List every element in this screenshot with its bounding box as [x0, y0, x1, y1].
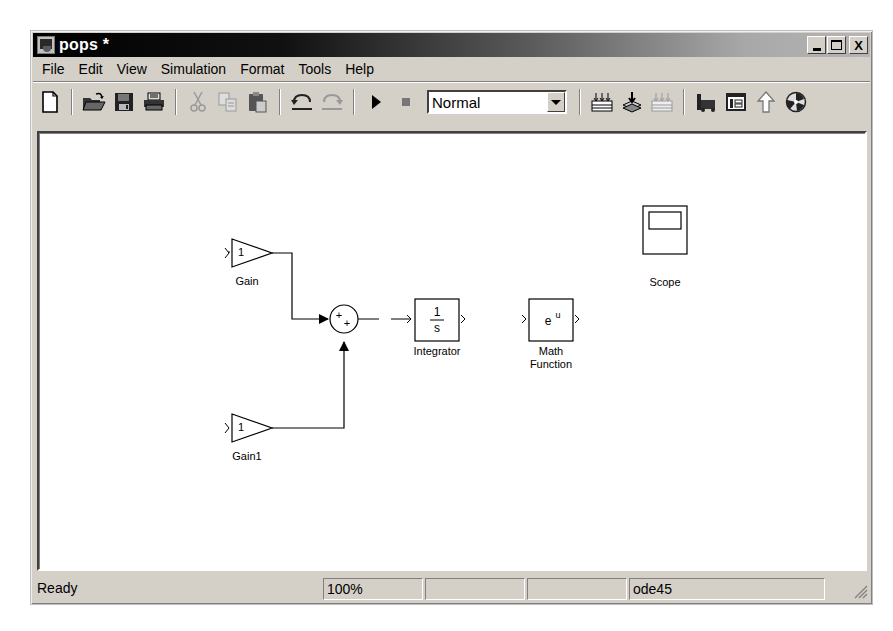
print-button[interactable] — [140, 88, 168, 116]
update-diagram-button[interactable] — [618, 88, 646, 116]
math-function-label-line2[interactable]: Function — [519, 358, 583, 371]
math-function-label-line1[interactable]: Math — [519, 345, 583, 358]
signal-line-gain1-to-sum[interactable] — [272, 342, 344, 428]
update-diagram-icon — [621, 91, 643, 113]
svg-text:1: 1 — [434, 305, 441, 319]
menu-tools[interactable]: Tools — [292, 59, 339, 79]
cut-button[interactable] — [184, 88, 212, 116]
svg-text:u: u — [555, 310, 560, 320]
gain-block[interactable] — [225, 239, 272, 267]
toolbar-separator — [71, 89, 73, 115]
svg-text:+: + — [344, 317, 350, 329]
window-controls: X — [806, 36, 868, 54]
model-canvas[interactable]: + + 1 s e u — [37, 131, 867, 571]
menu-help[interactable]: Help — [338, 59, 381, 79]
model-explorer-button[interactable] — [722, 88, 750, 116]
title-bar[interactable]: pops * X — [33, 33, 870, 57]
build-icon — [591, 92, 613, 112]
status-bar: Ready 100% ode45 — [33, 577, 870, 601]
zoom-level: 100% — [323, 578, 423, 600]
status-pane-3 — [425, 578, 525, 600]
simulation-mode-select[interactable]: Normal — [427, 90, 567, 114]
open-folder-icon — [82, 92, 106, 112]
new-model-button[interactable] — [36, 88, 64, 116]
print-icon — [142, 92, 166, 112]
window-title: pops * — [59, 36, 109, 54]
open-model-button[interactable] — [80, 88, 108, 116]
toolbar-separator — [683, 89, 685, 115]
library-browser-icon — [695, 92, 717, 112]
redo-button[interactable] — [318, 88, 346, 116]
undo-button[interactable] — [288, 88, 316, 116]
menu-file[interactable]: File — [35, 59, 72, 79]
scope-block[interactable] — [643, 206, 687, 254]
gain-label[interactable]: Gain — [225, 275, 269, 288]
menu-simulation[interactable]: Simulation — [154, 59, 233, 79]
cut-icon — [190, 91, 206, 113]
solver-name: ode45 — [629, 578, 825, 600]
toolbar-separator — [579, 89, 581, 115]
undo-icon — [290, 92, 314, 112]
toolbar-separator — [279, 89, 281, 115]
start-simulation-button[interactable] — [362, 88, 390, 116]
library-browser-button[interactable] — [692, 88, 720, 116]
math-function-block[interactable]: e u — [522, 299, 579, 341]
go-to-parent-icon — [757, 91, 775, 113]
svg-text:s: s — [434, 321, 440, 335]
maximize-icon — [831, 40, 842, 50]
scope-label[interactable]: Scope — [635, 276, 695, 289]
save-icon — [114, 92, 134, 112]
copy-button[interactable] — [214, 88, 242, 116]
new-document-icon — [41, 91, 59, 113]
build-subsystem-icon — [651, 92, 673, 112]
redo-icon — [320, 92, 344, 112]
sum-block[interactable]: + + — [330, 305, 358, 333]
integrator-block[interactable]: 1 s — [415, 299, 465, 341]
integrator-label[interactable]: Integrator — [405, 345, 469, 358]
model-explorer-icon — [726, 93, 746, 111]
paste-button[interactable] — [244, 88, 272, 116]
toolbar-separator — [353, 89, 355, 115]
start-simulation-icon — [370, 94, 382, 110]
go-to-parent-button[interactable] — [752, 88, 780, 116]
chevron-down-icon[interactable] — [547, 92, 565, 112]
status-text: Ready — [33, 578, 321, 600]
status-pane-4 — [527, 578, 627, 600]
resize-grip-icon[interactable] — [852, 583, 868, 599]
minimize-button[interactable] — [807, 36, 826, 54]
simulink-app-icon[interactable] — [37, 36, 55, 54]
copy-icon — [218, 92, 238, 112]
toolbar-separator — [175, 89, 177, 115]
build-button[interactable] — [588, 88, 616, 116]
gain1-label[interactable]: Gain1 — [225, 450, 269, 463]
build-subsystem-button[interactable] — [648, 88, 676, 116]
stop-simulation-button[interactable] — [392, 88, 420, 116]
minimize-icon — [813, 48, 821, 51]
menu-bar: File Edit View Simulation Format Tools H… — [35, 59, 868, 79]
debug-button[interactable] — [782, 88, 810, 116]
gain-value: 1 — [238, 246, 244, 259]
menu-view[interactable]: View — [110, 59, 154, 79]
svg-text:+: + — [336, 309, 342, 321]
signal-line-gain-to-sum[interactable] — [272, 253, 328, 319]
simulink-model-window: pops * X File Edit View Simulation Forma… — [30, 30, 873, 605]
stop-simulation-icon — [401, 97, 411, 107]
gain1-block[interactable] — [225, 414, 272, 442]
menu-format[interactable]: Format — [233, 59, 291, 79]
paste-icon — [248, 91, 268, 113]
toolbar: Normal — [35, 85, 868, 119]
debug-icon — [785, 91, 807, 113]
menu-edit[interactable]: Edit — [72, 59, 110, 79]
save-model-button[interactable] — [110, 88, 138, 116]
close-button[interactable]: X — [849, 36, 868, 54]
maximize-button[interactable] — [827, 36, 846, 54]
menu-toolbar-divider — [33, 81, 870, 83]
gain1-value: 1 — [238, 421, 244, 434]
simulation-mode-value: Normal — [429, 94, 547, 111]
svg-text:e: e — [545, 314, 552, 328]
close-icon: X — [854, 38, 863, 53]
